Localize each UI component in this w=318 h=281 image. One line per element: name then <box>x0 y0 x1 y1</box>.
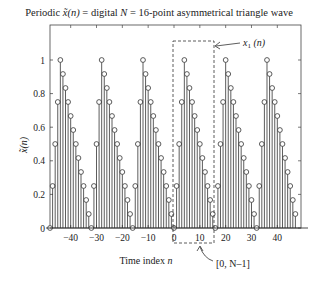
x-axis-label: Time index n <box>120 255 173 266</box>
svg-text:−30: −30 <box>89 233 104 243</box>
svg-text:0: 0 <box>172 233 177 243</box>
svg-text:20: 20 <box>221 233 231 243</box>
svg-text:−20: −20 <box>115 233 130 243</box>
stem-chart: −40−30−20−1001020304000.20.40.60.81 Peri… <box>0 0 318 281</box>
svg-text:10: 10 <box>195 233 205 243</box>
svg-text:1: 1 <box>40 56 45 66</box>
svg-text:0.8: 0.8 <box>33 89 45 99</box>
chart-title: Periodic x̃(n) = digital N = 16-point as… <box>25 7 293 19</box>
svg-text:0.2: 0.2 <box>33 190 45 200</box>
svg-text:0: 0 <box>40 224 45 234</box>
svg-text:0.6: 0.6 <box>33 123 45 133</box>
svg-text:30: 30 <box>247 233 257 243</box>
interval-annotation-label: [0, N–1] <box>216 258 250 269</box>
y-axis-label: x̃(n) <box>18 136 30 154</box>
svg-text:−40: −40 <box>63 233 78 243</box>
svg-text:−10: −10 <box>141 233 156 243</box>
x1-annotation-label: x1 (n) <box>242 37 266 50</box>
svg-text:40: 40 <box>273 233 283 243</box>
plot-frame <box>50 25 301 228</box>
svg-text:0.4: 0.4 <box>33 156 45 166</box>
